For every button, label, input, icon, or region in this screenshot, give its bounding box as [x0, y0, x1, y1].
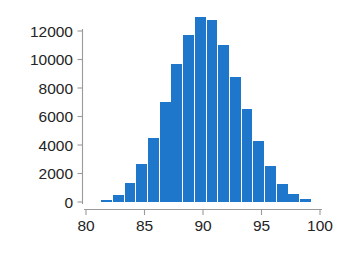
- y-tick-label: 2000: [39, 165, 74, 182]
- histogram-bar: [207, 20, 218, 202]
- histogram-bar: [277, 184, 288, 202]
- histogram-bar: [218, 45, 229, 202]
- histogram-bar: [148, 138, 159, 202]
- histogram-bar: [253, 141, 264, 202]
- histogram-bar: [300, 199, 311, 202]
- histogram-bar: [195, 17, 206, 202]
- histogram-bar: [242, 109, 253, 202]
- y-tick-label: 0: [64, 194, 73, 211]
- histogram-bar: [230, 77, 241, 202]
- x-axis: [84, 210, 322, 216]
- histogram-bar: [136, 164, 147, 202]
- histogram-bar: [101, 200, 112, 202]
- x-tick-label: 95: [253, 217, 270, 234]
- x-tick-label: 100: [307, 217, 333, 234]
- histogram-bar: [171, 64, 182, 202]
- x-tick-label: 85: [136, 217, 153, 234]
- x-tick-labels: 80859095100: [77, 217, 333, 234]
- histogram-bar: [125, 183, 136, 202]
- histogram-bar: [183, 35, 194, 202]
- histogram-bar: [113, 195, 124, 202]
- chart-canvas: 020004000600080001000012000 80859095100: [0, 0, 351, 256]
- histogram-bar: [265, 166, 276, 202]
- y-axis: [78, 29, 83, 204]
- y-tick-label: 4000: [39, 137, 74, 154]
- y-tick-label: 6000: [39, 108, 74, 125]
- y-tick-label: 10000: [30, 51, 73, 68]
- histogram-chart: 020004000600080001000012000 80859095100: [0, 0, 351, 256]
- x-tick-label: 80: [77, 217, 95, 234]
- bars-group: [101, 17, 311, 202]
- histogram-bar: [160, 102, 171, 202]
- histogram-bar: [288, 194, 299, 202]
- y-tick-labels: 020004000600080001000012000: [30, 23, 73, 211]
- x-tick-label: 90: [194, 217, 212, 234]
- y-tick-label: 8000: [39, 80, 74, 97]
- y-tick-label: 12000: [30, 23, 73, 40]
